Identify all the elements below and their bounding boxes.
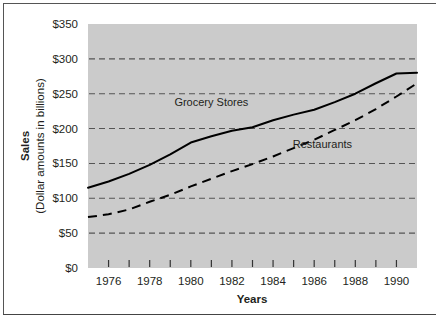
plot-area-background [88, 24, 417, 268]
x-tick-label-1990: 1990 [384, 275, 410, 287]
x-tick-label-1986: 1986 [301, 275, 327, 287]
y-tick-label-150: $150 [52, 157, 78, 169]
y-axis-tick-labels: $0$50$100$150$200$250$300$350 [52, 18, 78, 274]
y-axis-title: Sales [19, 131, 31, 161]
series-label-grocery-stores: Grocery Stores [174, 96, 248, 108]
y-tick-label-300: $300 [52, 53, 78, 65]
x-axis-title: Years [237, 293, 268, 305]
chart-figure: $0$50$100$150$200$250$300$350 1976197819… [0, 0, 439, 324]
x-tick-label-1980: 1980 [178, 275, 204, 287]
y-tick-label-350: $350 [52, 18, 78, 30]
line-chart: $0$50$100$150$200$250$300$350 1976197819… [0, 0, 439, 324]
x-tick-label-1982: 1982 [219, 275, 245, 287]
x-axis-tick-labels: 19761978198019821984198619881990 [96, 275, 409, 287]
y-tick-label-200: $200 [52, 123, 78, 135]
x-tick-label-1984: 1984 [260, 275, 286, 287]
y-tick-label-100: $100 [52, 192, 78, 204]
x-tick-label-1976: 1976 [96, 275, 122, 287]
x-tick-label-1978: 1978 [137, 275, 163, 287]
series-label-restaurants: Restaurants [293, 138, 353, 150]
y-axis-subtitle: (Dollar amounts in billions) [34, 78, 46, 214]
y-tick-label-250: $250 [52, 88, 78, 100]
x-tick-label-1988: 1988 [343, 275, 369, 287]
y-tick-label-0: $0 [65, 262, 78, 274]
y-tick-label-50: $50 [59, 227, 78, 239]
